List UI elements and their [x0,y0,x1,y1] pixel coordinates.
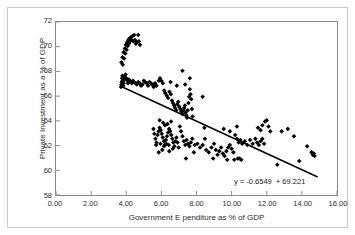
x-axis-tick-label: 10.00 [215,199,249,208]
scatter-point [168,80,173,85]
scatter-point [158,141,163,146]
scatter-point [175,83,180,88]
scatter-point [159,132,164,137]
scatter-point [235,124,240,129]
scatter-point [167,149,172,154]
scatter-point [138,43,143,48]
scatter-point [180,134,185,139]
scatter-point [286,127,291,132]
y-axis-tick-label: 68 [36,67,52,75]
scatter-point [190,107,195,112]
scatter-point [190,137,195,142]
x-axis-tick-label: 16.00 [321,199,355,208]
scatter-point [266,124,271,129]
scatter-point [184,156,189,161]
x-axis-tick-label: 2.00 [73,199,107,208]
scatter-point [305,144,310,149]
scatter-point [170,137,175,142]
y-axis-tick-label: 66 [36,92,52,100]
scatter-point [179,129,184,134]
x-axis-tick-label: 0.00 [38,199,72,208]
scatter-point [169,133,174,138]
scatter-plot-canvas [56,22,337,195]
y-axis-tick-label: 70 [36,42,52,50]
y-axis-tick-label: 72 [36,17,52,25]
y-axis-tick-labels: 5860626466687072 [34,21,52,196]
scatter-point [183,82,188,87]
x-axis-tick-label: 4.00 [109,199,143,208]
scatter-point [209,145,214,150]
scatter-point [248,138,253,143]
scatter-point [174,135,179,140]
scatter-point [221,127,226,132]
scatter-point [225,158,230,163]
scatter-point [268,129,273,134]
scatter-point [178,124,183,129]
scatter-point [212,141,217,146]
scatter-point [260,123,265,128]
screenshot-root: Private Investment as a % of GDP 5860626… [0,0,355,235]
axis-tick-marks [56,22,337,195]
scatter-point [279,129,284,134]
trendline-equation-label: y = -0.6549 + 69.221 [234,177,305,186]
scatter-point [157,118,162,123]
y-axis-tick-label: 62 [36,142,52,150]
scatter-point [203,137,208,142]
scatter-point [156,150,161,155]
scatter-point [188,87,193,92]
scatter-point [153,137,158,142]
x-axis-tick-labels: 0.002.004.006.008.0010.0012.0014.0016.00 [55,199,338,211]
y-axis-tick-label: 64 [36,117,52,125]
x-axis-tick-label: 12.00 [250,199,284,208]
y-axis-tick-label: 60 [36,167,52,175]
scatter-point [292,134,297,139]
scatter-point [186,101,191,106]
scatter-point [192,150,197,155]
scatter-point [151,127,156,132]
scatter-point [228,129,233,134]
scatter-point [176,145,181,150]
scatter-point [297,159,302,164]
x-axis-title: Government E penditure as % of GDP [55,213,338,222]
scatter-point [188,76,193,81]
scatter-point [262,141,267,146]
scatter-point [250,141,255,146]
scatter-point [160,135,165,140]
trendline [122,87,318,177]
scatter-point [200,94,205,99]
x-axis-tick-label: 6.00 [144,199,178,208]
x-axis-tick-label: 14.00 [286,199,320,208]
chart-frame: Private Investment as a % of GDP 5860626… [7,7,348,228]
scatter-point [180,69,185,74]
scatter-point [165,134,170,139]
scatter-point [169,119,174,124]
x-axis-tick-label: 8.00 [180,199,214,208]
plot-area: y = -0.6549 + 69.221 [55,21,338,196]
scatter-point [136,33,141,38]
scatter-point [275,162,280,167]
scatter-point [211,156,216,161]
